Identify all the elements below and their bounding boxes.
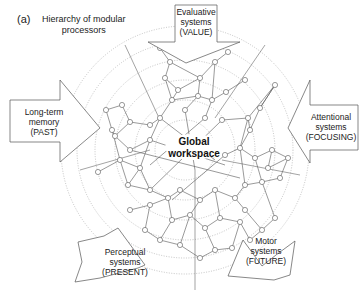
- label-line: systems: [244, 246, 288, 256]
- label-line: Long-term: [14, 107, 74, 117]
- global-workspace-line2: workspace: [164, 148, 224, 160]
- label-line: systems: [300, 122, 362, 132]
- global-workspace-label: Global workspace: [164, 136, 224, 160]
- figure-title: Hierarchy of modular processors: [42, 14, 126, 36]
- label-line: Attentional: [300, 112, 362, 122]
- label-line: Motor: [244, 236, 288, 246]
- label-line: (FUTURE): [244, 256, 288, 266]
- figure-title-line1: Hierarchy of modular: [42, 14, 126, 25]
- system-label-present: Perceptual systems (PRESENT): [100, 247, 150, 277]
- label-line: (PAST): [14, 127, 74, 137]
- figure-title-line2: processors: [42, 25, 126, 36]
- label-line: Perceptual: [100, 247, 150, 257]
- label-line: systems: [176, 17, 216, 27]
- panel-label: (a): [17, 13, 30, 25]
- global-workspace-line1: Global: [164, 136, 224, 148]
- label-line: systems: [100, 257, 150, 267]
- label-line: (VALUE): [176, 27, 216, 37]
- label-line: (PRESENT): [100, 267, 150, 277]
- system-label-future: Motor systems (FUTURE): [244, 236, 288, 266]
- label-line: Evaluative: [176, 7, 216, 17]
- system-label-value: Evaluative systems (VALUE): [176, 7, 216, 37]
- system-label-past: Long-term memory (PAST): [14, 107, 74, 137]
- label-line: (FOCUSING): [300, 132, 362, 142]
- system-label-focusing: Attentional systems (FOCUSING): [300, 112, 362, 142]
- label-line: memory: [14, 117, 74, 127]
